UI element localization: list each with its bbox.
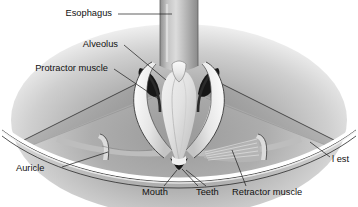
anatomy-illustration: Esophagus Alveolus Protractor muscle Aur… bbox=[0, 0, 358, 207]
label-mouth: Mouth bbox=[142, 187, 168, 197]
label-mantle-crest: l est bbox=[332, 154, 349, 164]
label-auricle: Auricle bbox=[16, 163, 44, 173]
label-retractor-muscle: Retractor muscle bbox=[232, 187, 302, 197]
label-esophagus: Esophagus bbox=[65, 8, 112, 18]
label-protractor-muscle: Protractor muscle bbox=[35, 63, 108, 73]
label-alveolus: Alveolus bbox=[83, 39, 118, 49]
esophagus-tube bbox=[160, 0, 198, 71]
figure-canvas: Esophagus Alveolus Protractor muscle Aur… bbox=[0, 0, 358, 207]
label-teeth: Teeth bbox=[196, 187, 219, 197]
